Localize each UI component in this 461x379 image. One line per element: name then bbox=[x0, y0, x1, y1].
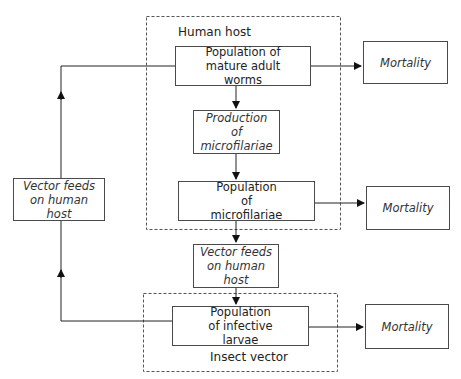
mortality-box-1: Mortality bbox=[363, 41, 448, 84]
production-box: Production of microfilariae bbox=[193, 110, 280, 154]
vector-feeds-left-box: Vector feeds on human host bbox=[13, 178, 105, 221]
mortality-box-2: Mortality bbox=[366, 186, 450, 230]
infective-larvae-box: Population of infective larvae bbox=[172, 306, 309, 346]
microfilariae-box: Population of microfilariae bbox=[178, 181, 315, 221]
mortality-box-3: Mortality bbox=[365, 304, 449, 349]
insect-vector-label: Insect vector bbox=[210, 350, 288, 364]
adult-worms-box: Population of mature adult worms bbox=[175, 46, 311, 86]
vector-feeds-mid-box: Vector feeds on human host bbox=[193, 244, 279, 288]
human-host-label: Human host bbox=[178, 25, 251, 39]
